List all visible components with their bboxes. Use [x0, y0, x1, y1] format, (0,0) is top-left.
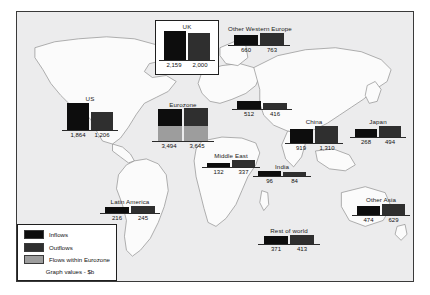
region-label-middle-east: Middle East	[202, 152, 260, 159]
bar-inflows-uk	[164, 30, 186, 60]
bars-japan	[350, 125, 406, 138]
region-chart-eurozone[interactable]: Eurozone 3,494 3,645	[152, 101, 214, 150]
values-china: 919 1,310	[285, 145, 343, 152]
bar-segment-outflows	[260, 33, 284, 45]
bar-segment-outflows	[382, 204, 405, 215]
values-uk: 2,159 2,000	[159, 62, 215, 69]
region-chart-india[interactable]: India 96 84	[253, 163, 311, 185]
value-outflows-middle-east: 337	[232, 169, 255, 176]
region-label-japan: Japan	[350, 118, 406, 125]
legend-row-inflows: Inflows	[24, 230, 116, 239]
region-chart-middle-east[interactable]: Middle East 132 337	[202, 152, 260, 176]
region-chart-uk[interactable]: UK 2,159 2,000	[159, 23, 215, 69]
bar-outflows-row	[290, 234, 314, 244]
bar-segment-inflows	[357, 206, 380, 215]
bar-segment-outflows	[315, 126, 338, 143]
bar-segment-inflows	[237, 101, 261, 109]
bar-segment-inflows	[158, 109, 182, 126]
values-us: 1,864 1,206	[62, 132, 118, 139]
value-inflows-other-asia: 474	[357, 217, 380, 224]
region-label-uk: UK	[159, 23, 215, 30]
region-label-other-western-europe: Other Western Europe	[228, 25, 290, 32]
legend-label-outflows: Outflows	[49, 244, 73, 251]
value-outflows-eurozone: 3,645	[184, 143, 210, 150]
region-label-china: China	[285, 118, 343, 125]
bar-segment-inflows	[67, 103, 89, 130]
bar-outflows-owe	[260, 32, 284, 45]
bar-inflows-other-asia	[357, 203, 380, 215]
legend-note: Graph values - $b	[24, 268, 116, 275]
bars-rest-of-world	[258, 234, 320, 245]
values-middle-east: 132 337	[202, 169, 260, 176]
bar-segment-outflows	[379, 126, 401, 137]
value-outflows-row: 413	[290, 246, 314, 253]
value-inflows-middle-east: 132	[207, 169, 230, 176]
legend-label-eurozone: Flows within Eurozone	[49, 256, 110, 263]
value-outflows-owe: 763	[260, 47, 284, 54]
legend-panel: Inflows Outflows Flows within Eurozone G…	[17, 224, 117, 281]
region-label-us: US	[62, 95, 118, 102]
bars-us	[62, 102, 118, 131]
bar-outflows-middle-east	[232, 159, 255, 167]
region-label-rest-of-world: Rest of world	[258, 227, 320, 234]
value-outflows-japan: 494	[379, 139, 401, 146]
values-russia: 512 416	[232, 111, 292, 118]
bar-segment-inflows	[105, 207, 129, 213]
bar-outflows-china	[315, 125, 338, 143]
bar-outflows-india	[283, 170, 306, 176]
region-label-eurozone: Eurozone	[152, 101, 214, 108]
region-chart-russia-eastern-europe[interactable]: 512 416	[232, 100, 292, 118]
bar-segment-eurozone-internal	[158, 126, 182, 141]
value-inflows-china: 919	[289, 145, 313, 152]
bar-outflows-eurozone	[184, 108, 208, 141]
value-inflows-eurozone: 3,494	[156, 143, 182, 150]
values-japan: 268 494	[350, 139, 406, 146]
value-outflows-latam: 245	[131, 215, 155, 222]
bars-middle-east	[202, 159, 260, 168]
bar-outflows-uk	[188, 30, 210, 60]
region-chart-latin-america[interactable]: Latin America 216 245	[100, 198, 160, 222]
values-other-western-europe: 660 763	[228, 47, 290, 54]
bars-latin-america	[100, 205, 160, 214]
bar-outflows-russia	[263, 100, 287, 109]
legend-swatch-outflows	[24, 243, 44, 252]
value-inflows-uk: 2,159	[162, 62, 186, 69]
bar-inflows-russia	[237, 100, 261, 109]
value-inflows-row: 371	[264, 246, 288, 253]
bar-inflows-us	[67, 102, 89, 130]
bar-inflows-row	[264, 234, 288, 244]
infographic-root: US 1,864 1,206 UK 2,159 2,000	[0, 0, 430, 295]
bar-segment-outflows	[263, 103, 287, 109]
bar-segment-inflows	[234, 35, 258, 45]
legend-swatch-eurozone	[24, 255, 44, 264]
bar-inflows-eurozone	[158, 108, 182, 141]
bar-segment-inflows	[264, 236, 288, 244]
values-other-asia: 474 629	[352, 217, 410, 224]
value-outflows-uk: 2,000	[188, 62, 212, 69]
region-label-latin-america: Latin America	[100, 198, 160, 205]
value-outflows-other-asia: 629	[382, 217, 405, 224]
legend-row-outflows: Outflows	[24, 243, 116, 252]
values-rest-of-world: 371 413	[258, 246, 320, 253]
region-chart-japan[interactable]: Japan 268 494	[350, 118, 406, 146]
bar-inflows-owe	[234, 32, 258, 45]
bar-segment-inflows	[290, 129, 313, 143]
legend-swatch-inflows	[24, 230, 44, 239]
region-chart-us[interactable]: US 1,864 1,206	[62, 95, 118, 139]
bars-uk	[159, 30, 215, 61]
bar-segment-inflows	[164, 31, 186, 60]
legend-row-eurozone: Flows within Eurozone	[24, 255, 116, 264]
bar-outflows-japan	[379, 125, 401, 137]
bars-other-asia	[352, 203, 410, 216]
value-outflows-china: 1,310	[315, 145, 339, 152]
bar-segment-outflows	[184, 108, 208, 126]
region-label-india: India	[253, 163, 311, 170]
bar-outflows-us	[91, 102, 113, 130]
region-chart-other-asia[interactable]: Other Asia 474 629	[352, 196, 410, 224]
bar-segment-outflows	[188, 33, 210, 60]
value-inflows-us: 1,864	[67, 132, 89, 139]
region-chart-other-western-europe[interactable]: Other Western Europe 660 763	[228, 25, 290, 54]
bars-russia	[232, 100, 292, 110]
region-chart-china[interactable]: China 919 1,310	[285, 118, 343, 152]
region-chart-rest-of-world[interactable]: Rest of world 371 413	[258, 227, 320, 253]
